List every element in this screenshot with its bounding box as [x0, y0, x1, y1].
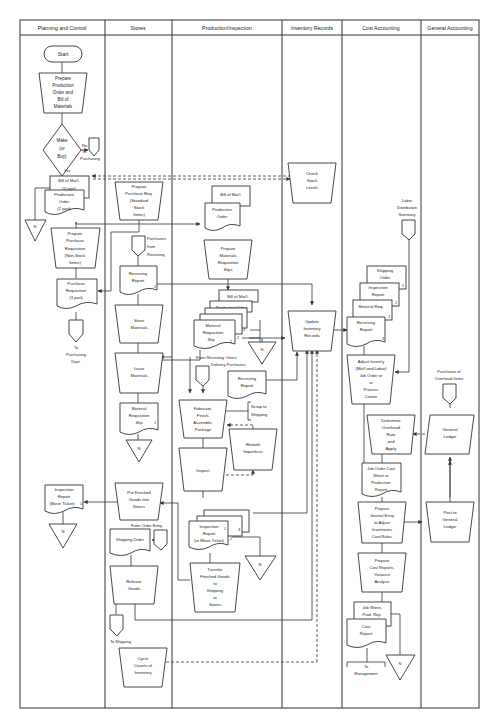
svg-text:1: 1: [154, 421, 156, 425]
svg-text:Order and: Order and: [53, 90, 74, 95]
node-job-order-cost-sheet: Job Order Cost Sheet or Production Repor…: [362, 463, 401, 497]
svg-text:Stock: Stock: [307, 178, 318, 183]
svg-text:Slip: Slip: [208, 337, 216, 342]
svg-text:Report: Report: [372, 292, 385, 297]
svg-text:Check: Check: [306, 171, 319, 176]
node-cycle-counts: Cycle Counts of Inventory: [119, 648, 167, 687]
svg-text:N: N: [259, 562, 262, 567]
svg-text:Overhead Items: Overhead Items: [435, 376, 463, 381]
svg-text:Inventories: Inventories: [372, 527, 392, 532]
svg-text:Report: Report: [375, 487, 388, 492]
svg-text:Material: Material: [132, 406, 147, 411]
node-prepare-production-order: Prepare Production Order and Bill of Mat…: [39, 73, 87, 113]
node-rework-imperfects: Rework Imperfects: [229, 429, 277, 470]
svg-text:Release: Release: [126, 579, 142, 584]
node-start: Start: [44, 46, 82, 62]
svg-text:Inspect: Inspect: [196, 468, 210, 473]
svg-text:Prepare: Prepare: [68, 231, 84, 236]
svg-text:Job Sheet,: Job Sheet,: [362, 605, 382, 610]
svg-text:Requisition: Requisition: [66, 288, 87, 293]
svg-text:Bill of Mat'l.: Bill of Mat'l.: [227, 294, 248, 299]
node-inspection-report-planning: Inspection Report (Move Ticket) 1: [45, 485, 83, 514]
node-bom-prod-order-2part: Bill of Mat'l. (2 part) Production Order…: [45, 176, 89, 215]
svg-text:Analysis: Analysis: [374, 579, 389, 584]
svg-text:To: To: [74, 345, 79, 350]
svg-text:Prepare: Prepare: [221, 246, 237, 251]
svg-text:Records: Records: [304, 333, 320, 338]
svg-text:Order: Order: [380, 275, 391, 280]
svg-text:Items): Items): [69, 260, 81, 265]
svg-text:Shipping: Shipping: [251, 412, 268, 417]
svg-text:N: N: [261, 347, 264, 352]
svg-text:Materials: Materials: [131, 373, 148, 378]
svg-text:Report: Report: [360, 631, 373, 636]
svg-text:1: 1: [224, 527, 226, 531]
svg-text:Prepare: Prepare: [375, 506, 390, 511]
lane-header-production: Production/Inspection: [202, 25, 252, 31]
svg-text:Overhead: Overhead: [382, 425, 401, 430]
node-file-n-inspection: N: [245, 556, 276, 580]
svg-text:Shipping Order: Shipping Order: [116, 537, 145, 542]
node-prepare-pr-standard: Prepare Purchase Req. (Standard Stock It…: [115, 182, 163, 220]
svg-text:Purchasing: Purchasing: [66, 352, 86, 357]
svg-text:To Shipping: To Shipping: [110, 639, 131, 644]
svg-text:General: General: [443, 427, 458, 432]
svg-text:Imperfects: Imperfects: [243, 449, 263, 454]
node-labor-distribution-connector: Labor Distribution Summary: [397, 198, 417, 240]
svg-text:Distribution: Distribution: [397, 205, 417, 210]
svg-text:Stock: Stock: [134, 205, 145, 210]
svg-text:N: N: [399, 661, 402, 666]
svg-text:Store: Store: [134, 318, 145, 323]
node-prepare-cost-reports: Prepare Cost Reports, Variance Analysis: [358, 553, 406, 592]
svg-text:Variance: Variance: [374, 572, 391, 577]
svg-text:Cost: Cost: [362, 624, 371, 629]
svg-text:To: To: [364, 664, 369, 669]
svg-text:Post to: Post to: [443, 510, 457, 515]
svg-text:Material: Material: [206, 323, 221, 328]
node-post-to-general-ledger: Post to General Ledger: [426, 502, 474, 542]
svg-text:Counts of: Counts of: [134, 663, 153, 668]
shapes: Start Prepare Production Order and Bill …: [25, 46, 474, 687]
svg-text:Buy): Buy): [57, 154, 67, 159]
svg-text:Inventory: Inventory: [134, 670, 152, 675]
svg-text:N: N: [62, 529, 65, 534]
svg-text:Job Order Cost: Job Order Cost: [367, 466, 396, 471]
svg-text:Order: Order: [217, 214, 228, 219]
swimlane-frame: [20, 20, 479, 708]
svg-text:Package: Package: [195, 427, 212, 432]
svg-text:2: 2: [237, 336, 239, 340]
node-determine-overhead: Determine Overhead Rate and Apply: [367, 415, 415, 454]
svg-text:Process: Process: [364, 387, 379, 392]
svg-text:Goods: Goods: [128, 586, 140, 591]
svg-text:or: or: [213, 595, 217, 600]
svg-text:Materials: Materials: [54, 104, 73, 109]
svg-text:Make: Make: [56, 138, 68, 143]
svg-text:Report: Report: [241, 383, 254, 388]
svg-text:Management: Management: [354, 671, 378, 676]
svg-text:Bill of Mat'l.: Bill of Mat'l.: [58, 178, 79, 183]
svg-text:(Non-Stock: (Non-Stock: [65, 253, 87, 258]
svg-text:Production: Production: [212, 207, 233, 212]
svg-text:and: and: [388, 439, 396, 444]
svg-text:From Receiving: Direct: From Receiving: Direct: [196, 355, 238, 360]
node-to-purchasing-connector: To Purchasing: [80, 138, 100, 161]
svg-text:Shipping: Shipping: [377, 268, 394, 273]
svg-text:5: 5: [402, 284, 404, 288]
svg-text:Start: Start: [58, 51, 69, 57]
node-inspection-report-stack: Inspection Report (or Move Ticket) 1 2 3: [189, 510, 249, 550]
svg-text:Rework: Rework: [246, 442, 261, 447]
svg-text:Apply: Apply: [386, 446, 397, 451]
node-store-materials: Store Materials: [115, 305, 163, 343]
node-bom-production-order-prod: Bill of Mat'l. Production Order: [205, 186, 250, 231]
svg-text:2: 2: [395, 301, 397, 305]
svg-text:Stores: Stores: [209, 602, 221, 607]
svg-text:Report: Report: [360, 327, 373, 332]
node-material-requisition-slip-stores: Material Requisition Slip 1: [120, 403, 158, 435]
svg-text:Fabricate,: Fabricate,: [194, 406, 213, 411]
node-receiving-report-stores: Receiving Report 2: [120, 266, 157, 295]
svg-text:Materials: Materials: [131, 325, 148, 330]
svg-text:(2 part): (2 part): [57, 206, 71, 211]
svg-text:Inspection: Inspection: [199, 524, 219, 529]
svg-text:Production: Production: [371, 480, 391, 485]
node-inspect: Inspect: [179, 448, 227, 491]
